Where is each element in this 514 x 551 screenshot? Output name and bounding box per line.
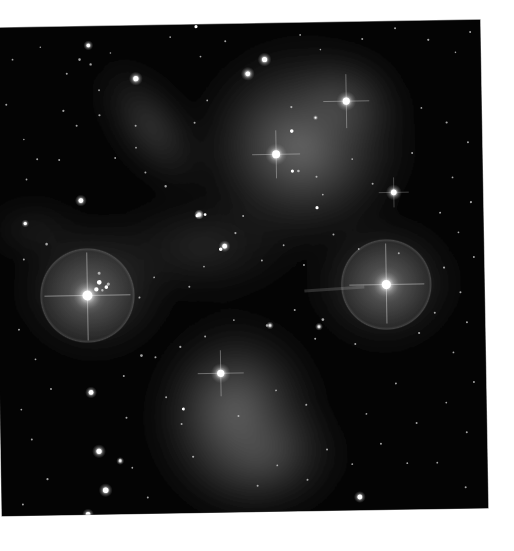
star-field-graphic [0,20,488,516]
pleiades-photo [0,20,488,516]
